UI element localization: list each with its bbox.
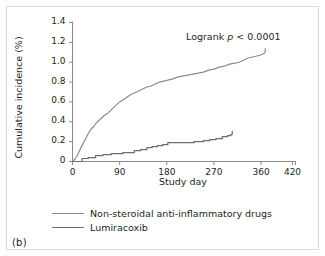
legend-item: Lumiracoxib bbox=[52, 220, 272, 234]
logrank-annotation: Logrank p < 0.0001 bbox=[186, 31, 281, 42]
x-tick-label: 0 bbox=[58, 167, 88, 177]
series-line-lumiracoxib bbox=[73, 135, 233, 162]
y-axis-label: Cumulative incidence (%) bbox=[13, 33, 24, 163]
x-tick-label: 90 bbox=[105, 167, 135, 177]
y-tick-label: 0.2 bbox=[40, 135, 66, 145]
y-tick-label: 0.4 bbox=[40, 115, 66, 125]
annotation-prefix: Logrank bbox=[186, 31, 227, 42]
chart-legend: Non-steroidal anti-inflammatory drugsLum… bbox=[52, 206, 272, 234]
x-tick-label: 360 bbox=[246, 167, 276, 177]
x-tick-label: 420 bbox=[278, 167, 308, 177]
series-line-nsaid bbox=[73, 52, 266, 161]
annotation-suffix: < 0.0001 bbox=[233, 31, 280, 42]
legend-swatch-line bbox=[52, 213, 84, 214]
panel-label: (b) bbox=[12, 237, 27, 248]
y-tick-label: 1.2 bbox=[40, 36, 66, 46]
legend-label: Non-steroidal anti-inflammatory drugs bbox=[90, 208, 272, 219]
x-axis-label: Study day bbox=[72, 176, 294, 187]
figure-panel-b: Cumulative incidence (%) Study day 00.20… bbox=[0, 0, 325, 256]
y-tick-label: 1.0 bbox=[40, 56, 66, 66]
legend-label: Lumiracoxib bbox=[90, 222, 148, 233]
y-tick-label: 0 bbox=[40, 155, 66, 165]
legend-swatch-line bbox=[52, 227, 84, 228]
x-tick-label: 180 bbox=[152, 167, 182, 177]
y-tick-label: 1.4 bbox=[40, 16, 66, 26]
y-tick-label: 0.6 bbox=[40, 95, 66, 105]
legend-item: Non-steroidal anti-inflammatory drugs bbox=[52, 206, 272, 220]
x-tick-label: 270 bbox=[199, 167, 229, 177]
y-tick-label: 0.8 bbox=[40, 76, 66, 86]
